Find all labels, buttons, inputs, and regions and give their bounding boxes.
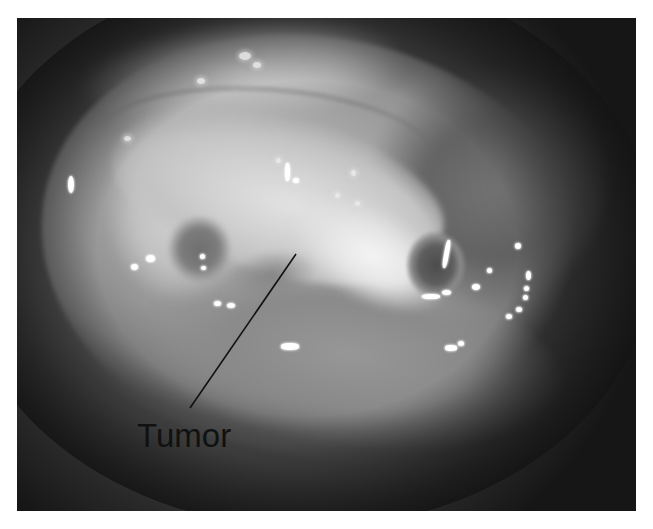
annotation-layer: Tumor bbox=[0, 0, 653, 529]
tumor-label: Tumor bbox=[137, 417, 231, 454]
tumor-leader-line bbox=[190, 254, 296, 408]
